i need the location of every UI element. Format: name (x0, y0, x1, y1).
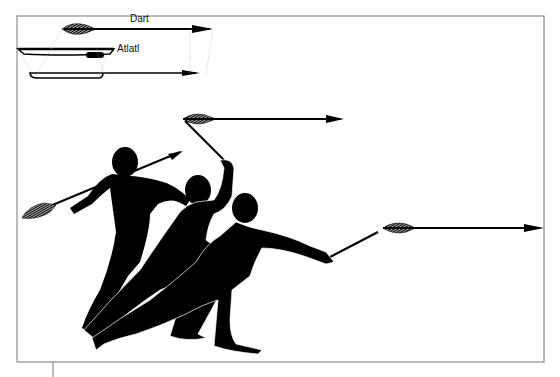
released-dart (383, 223, 544, 233)
atlatl-diagram: Dart Atlatl (0, 0, 560, 377)
legend-dart (62, 24, 213, 35)
launch-dart (183, 114, 344, 160)
diagram-canvas (0, 0, 560, 377)
dart-label: Dart (130, 14, 149, 24)
atlatl-label: Atlatl (117, 44, 139, 54)
follow-through-atlatl (330, 232, 378, 257)
legend-atlatl (18, 29, 213, 78)
